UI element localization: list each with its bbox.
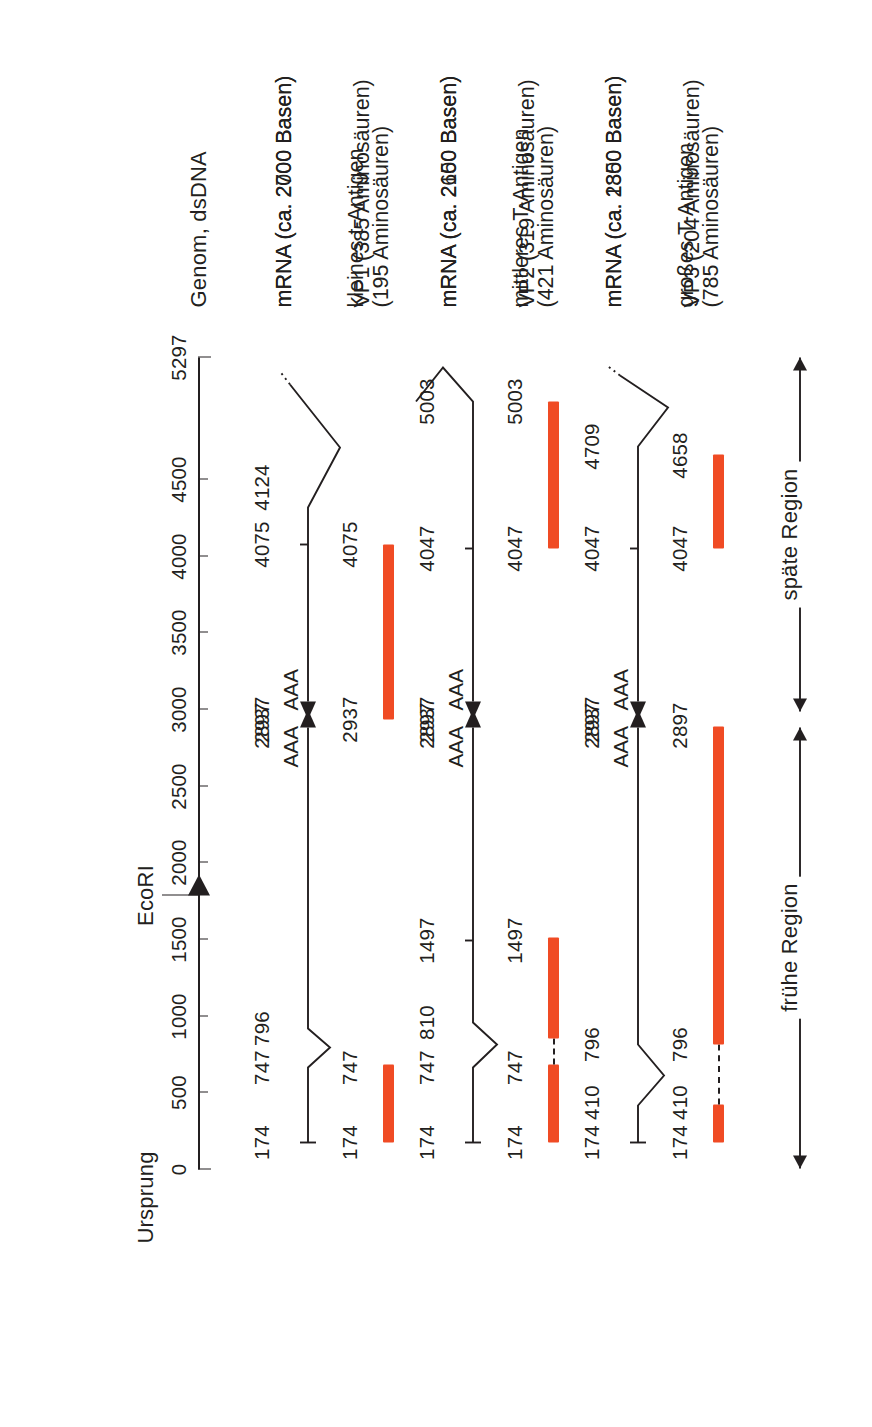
- genome-map-figure: 0 500 1000 1500 2000 2500 3000 3500 4000…: [0, 0, 872, 1427]
- region-arrows-shape: [0, 0, 872, 1427]
- early-region-label: frühe Region: [777, 876, 803, 1018]
- region-arrows-layer: frühe Region späte Region: [0, 0, 872, 1427]
- late-region-label: späte Region: [777, 461, 803, 607]
